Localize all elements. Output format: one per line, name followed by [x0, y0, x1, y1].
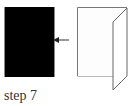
folded-paper-icon: [78, 8, 128, 91]
black-panel: [4, 7, 55, 77]
step-caption: step 7: [4, 88, 37, 104]
arrow-left-icon: [53, 37, 69, 43]
